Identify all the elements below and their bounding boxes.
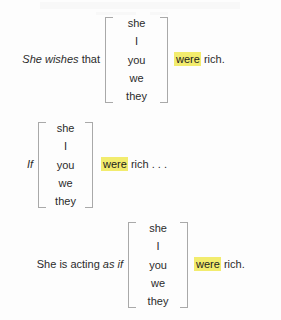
pronoun-bracket-stack: she I you we they [128, 222, 188, 308]
example-tail-text: were rich. [194, 258, 245, 271]
list-item: we [105, 72, 168, 85]
tail-text: rich . . . [131, 158, 167, 170]
list-item: I [105, 35, 168, 48]
example-lead-text: She wishes that [0, 53, 100, 66]
list-item: they [105, 90, 168, 103]
lead-italic-text: If [27, 158, 33, 170]
lead-italic-text: as if [103, 258, 123, 270]
lead-italic-text: She wishes [22, 53, 78, 65]
example-tail-text: were rich. [174, 53, 225, 66]
tail-text: rich. [224, 258, 245, 270]
page-canvas: She wishes that she I you we they were r… [0, 0, 281, 320]
highlighted-verb: were [174, 52, 201, 66]
example-tail-text: were rich . . . [101, 158, 167, 171]
list-item: we [38, 177, 93, 190]
list-item: you [38, 159, 93, 172]
scan-artifact [150, 12, 168, 15]
list-item: they [38, 195, 93, 208]
lead-roman-text: She is acting [37, 258, 100, 270]
pronoun-bracket-stack: she I you we they [38, 122, 93, 208]
list-item: we [128, 277, 188, 290]
list-item: I [128, 240, 188, 253]
list-item: I [38, 140, 93, 153]
example-lead-text: She is acting as if [0, 258, 123, 271]
example-lead-text: If [0, 158, 33, 171]
pronoun-bracket-stack: she I you we they [105, 17, 168, 103]
list-item: she [38, 122, 93, 135]
list-item: she [105, 17, 168, 30]
highlighted-verb: were [194, 257, 221, 271]
lead-roman-text: that [82, 53, 100, 65]
list-item: you [128, 259, 188, 272]
scan-artifact [40, 2, 240, 9]
highlighted-verb: were [101, 157, 128, 171]
tail-text: rich. [204, 53, 225, 65]
list-item: you [105, 54, 168, 67]
list-item: they [128, 295, 188, 308]
scan-artifact [96, 12, 136, 15]
list-item: she [128, 222, 188, 235]
